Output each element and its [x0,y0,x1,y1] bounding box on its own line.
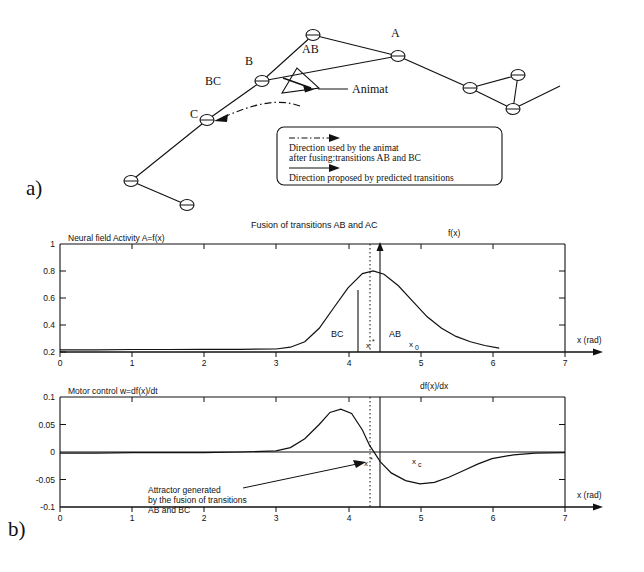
bottom-plot-y-axis-title: Motor control w=df(x)/dt [68,386,158,396]
attractor-annotation-line2: by the fusion of transitions [148,495,247,505]
top-plot: 0 1 2 3 4 5 6 7 0.2 0.4 0.6 0.8 1 Neur [43,228,603,368]
svg-text:0.05: 0.05 [38,420,55,430]
svg-text:4: 4 [347,358,352,368]
svg-text:5: 5 [419,358,424,368]
svg-text:5: 5 [419,513,424,523]
svg-text:*: * [372,338,375,345]
transition-label-ab: AB [302,42,319,56]
node-label-a: A [391,26,400,40]
svg-text:0.1: 0.1 [43,392,55,402]
bottom-plot-x-axis [60,504,603,511]
svg-text:0.6: 0.6 [43,293,55,303]
panel-b-plots: Fusion of transitions AB and AC [0,212,644,572]
bottom-plot-y-ticklabels: -0.1 -0.05 0 0.05 0.1 [36,392,56,512]
top-plot-marker-bc-label: BC [331,329,344,339]
svg-text:2: 2 [202,513,207,523]
svg-text:6: 6 [491,513,496,523]
legend-box: Direction used by the animat after fusin… [277,127,502,185]
svg-text:*: * [370,456,373,463]
top-plot-marker-ab-line [377,242,384,352]
attractor-annotation-line1: Attractor generated [148,485,221,495]
svg-text:1: 1 [130,513,135,523]
top-plot-frame [60,244,565,352]
svg-text:1: 1 [130,358,135,368]
attractor-annotation-line3: AB and BC [148,505,190,515]
svg-text:1: 1 [50,239,55,249]
bottom-plot-corner-label: df(x)/dx [420,381,449,391]
svg-text:-0.1: -0.1 [40,502,55,512]
graph-nodes [124,30,525,211]
svg-text:2: 2 [202,358,207,368]
svg-text:x: x [366,341,370,350]
top-plot-x0-axis-label: x 0 [409,340,419,351]
svg-text:x: x [409,340,413,349]
panel-b-label: b) [8,517,26,542]
figure-container: A B C AB BC Animat Direction used by the… [0,0,644,572]
top-plot-marker-ab-label: AB [389,329,401,339]
legend-swatch-fused [289,134,340,142]
svg-text:7: 7 [563,358,568,368]
bottom-plot-x-ticklabels: 0 1 2 3 4 5 6 7 [58,513,568,523]
svg-text:c: c [418,461,422,468]
svg-text:3: 3 [274,513,279,523]
legend-text-fused-line2: after fusing:transitions AB and BC [289,153,421,163]
svg-text:x: x [364,459,368,468]
svg-text:0.4: 0.4 [43,320,55,330]
svg-text:7: 7 [563,513,568,523]
svg-text:6: 6 [491,358,496,368]
top-plot-x-ticks [60,244,565,357]
svg-text:0: 0 [415,344,419,351]
svg-text:x: x [412,457,416,466]
top-plot-x-axis-label: x (rad) [577,335,602,345]
svg-text:-0.05: -0.05 [36,475,56,485]
svg-text:3: 3 [274,358,279,368]
svg-text:0.8: 0.8 [43,266,55,276]
svg-text:0: 0 [58,358,63,368]
node-label-c: C [190,107,198,121]
svg-text:0: 0 [50,447,55,457]
panel-b-title: Fusion of transitions AB and AC [251,220,378,230]
animat-label: Animat [352,82,389,96]
top-plot-y-ticks [60,271,565,352]
panel-a-graph: A B C AB BC Animat Direction used by the… [0,0,644,212]
top-plot-y-axis-title: Neural field Activity A=f(x) [68,233,165,243]
legend-text-fused-line1: Direction used by the animat [289,143,399,153]
top-plot-x-ticklabels: 0 1 2 3 4 5 6 7 [58,358,568,368]
svg-text:0.2: 0.2 [43,347,55,357]
top-plot-curve [60,271,499,350]
attractor-callout [243,460,366,488]
top-plot-corner-label: f(x) [448,228,460,238]
bottom-plot: 0 1 2 3 4 5 6 7 -0.1 -0.05 0 0.05 0.1 Mo… [36,381,603,523]
top-plot-y-ticklabels: 0.2 0.4 0.6 0.8 1 [43,239,55,357]
legend-text-predicted: Direction proposed by predicted transiti… [289,173,454,183]
legend-swatch-predicted [289,164,340,172]
panel-a-label: a) [26,176,42,201]
bottom-plot-xstar-label: x * [364,456,373,468]
bottom-plot-x-ticks [60,397,565,512]
transition-label-bc: BC [205,74,221,88]
node-label-b: B [245,54,253,68]
bottom-plot-curve [60,409,565,484]
svg-text:0: 0 [58,513,63,523]
bottom-plot-x-axis-label: x (rad) [577,490,602,500]
svg-text:4: 4 [347,513,352,523]
bottom-plot-xc-label: x c [412,457,422,468]
